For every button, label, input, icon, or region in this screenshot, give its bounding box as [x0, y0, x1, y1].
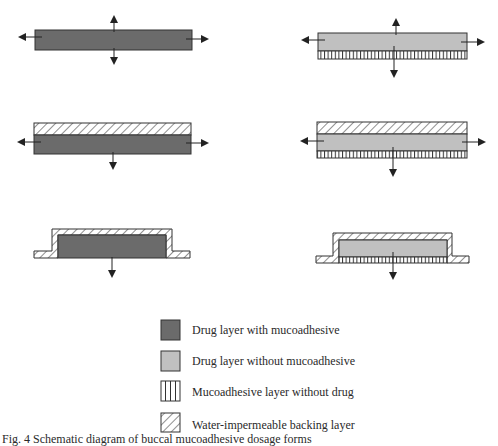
backing-layer	[34, 123, 191, 135]
backing-layer	[317, 122, 467, 134]
legend-label-drug-without-mucoadhesive: Drug layer without mucoadhesive	[192, 354, 355, 368]
panel-b-drug-with-mucoadhesive-layer	[303, 20, 483, 76]
legend-swatches	[161, 320, 180, 432]
panel-a-drug-with-mucoadhesive	[20, 17, 207, 63]
drug-layer-with-mucoadhesive	[35, 30, 192, 50]
drug-layer-with-mucoadhesive	[34, 135, 191, 154]
figure-caption: Fig. 4 Schematic diagram of buccal mucoa…	[2, 432, 312, 446]
legend-swatch-drug-with-mucoadhesive	[161, 320, 180, 340]
legend-label-drug-with-mucoadhesive: Drug layer with mucoadhesive	[192, 323, 340, 337]
legend-label-mucoadhesive-without-drug: Mucoadhesive layer without drug	[192, 385, 354, 399]
legend-swatch-drug-without-mucoadhesive	[161, 351, 180, 371]
mucoadhesive-layer-without-drug	[317, 151, 467, 158]
legend-swatch-backing-layer	[161, 413, 180, 432]
mucoadhesive-layer-without-drug	[318, 51, 467, 59]
panel-e-enclosed-drug-with-mucoadhesive	[34, 229, 190, 276]
drug-layer-without-mucoadhesive	[318, 33, 467, 51]
drug-layer-without-mucoadhesive	[317, 134, 467, 151]
panel-d-backed-three-layer	[302, 122, 484, 175]
legend-label-backing-layer: Water-impermeable backing layer	[192, 418, 355, 432]
panel-c-backed-drug-with-mucoadhesive	[19, 123, 207, 168]
panel-f-enclosed-three-layer	[316, 233, 469, 278]
drug-layer-with-mucoadhesive	[58, 235, 166, 258]
